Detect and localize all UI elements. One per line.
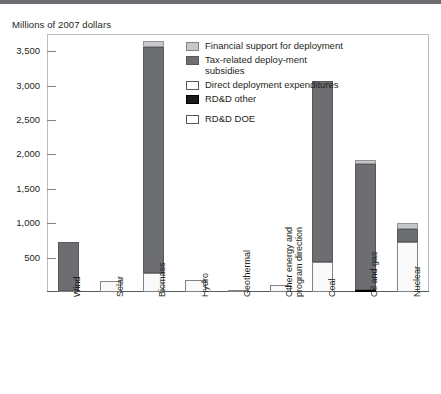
bar-segment	[143, 47, 164, 273]
y-axis-tick-label: 500	[0, 252, 40, 263]
x-axis-tick-label: Hydro	[200, 273, 210, 297]
y-axis-tick-label: 3,000	[0, 80, 40, 91]
bar-segment	[355, 160, 376, 164]
bar-segment	[397, 229, 418, 243]
y-axis-tick	[47, 189, 56, 190]
bar-segment	[397, 223, 418, 229]
bar-segment	[143, 41, 164, 47]
y-axis-tick	[47, 51, 56, 52]
x-axis-tick-label: Biomass	[157, 262, 167, 297]
legend-swatch-direct-deployment-icon	[186, 81, 199, 90]
legend-item: RD&D DOE	[186, 113, 346, 124]
y-axis-tick	[47, 154, 56, 155]
legend-swatch-rdd-other-icon	[186, 95, 199, 104]
legend-label: RD&D DOE	[205, 113, 255, 124]
y-axis-tick	[47, 120, 56, 121]
x-axis-tick-label: Oil and gas	[369, 251, 379, 297]
y-axis-tick-label: 1,000	[0, 217, 40, 228]
x-axis-tick-label: Nuclear	[412, 266, 422, 297]
legend-swatch-rdd-doe-icon	[186, 115, 199, 124]
legend-label: Direct deployment expenditures	[205, 79, 339, 90]
chart-legend: Financial support for deployment Tax-rel…	[186, 40, 346, 127]
bar-group	[143, 41, 164, 292]
y-axis-tick-label: 2,000	[0, 148, 40, 159]
y-axis-tick	[47, 258, 56, 259]
legend-item: Tax-related deploy-ment subsidies	[186, 54, 346, 76]
legend-label: Financial support for deployment	[205, 40, 343, 51]
legend-item: Direct deployment expenditures	[186, 79, 346, 90]
legend-item: Financial support for deployment	[186, 40, 346, 51]
x-axis-tick-label: Geothermal	[242, 250, 252, 297]
legend-label: Tax-related deploy-ment subsidies	[205, 54, 346, 76]
legend-swatch-tax-related-icon	[186, 56, 199, 65]
x-axis-tick-label: Wind	[72, 276, 82, 297]
y-axis-tick-label: 1,500	[0, 183, 40, 194]
x-axis-tick-label: Solar	[115, 276, 125, 297]
axis-unit-title: Millions of 2007 dollars	[12, 19, 111, 30]
legend-label: RD&D other	[205, 93, 256, 104]
y-axis-tick-label: 3,500	[0, 45, 40, 56]
legend-item: RD&D other	[186, 93, 346, 104]
y-axis-tick-label: 2,500	[0, 114, 40, 125]
y-axis-tick	[47, 86, 56, 87]
x-axis-tick-label: Coal	[327, 278, 337, 297]
x-axis-tick-label: Other energy and program direction	[284, 209, 304, 297]
top-rule	[0, 0, 441, 4]
legend-swatch-financial-support-icon	[186, 42, 199, 51]
y-axis-tick	[47, 223, 56, 224]
